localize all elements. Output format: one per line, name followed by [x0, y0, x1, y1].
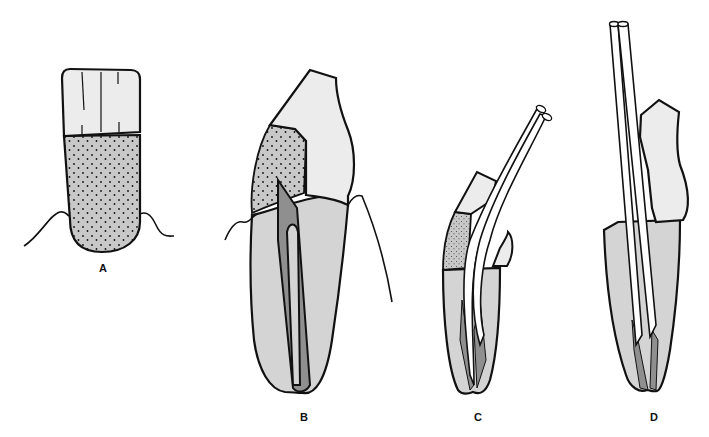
- panel-a-tooth: [24, 69, 174, 252]
- panel-label-d: D: [650, 411, 658, 423]
- dental-figure: A B C D: [0, 0, 709, 437]
- panel-label-b: B: [300, 411, 308, 423]
- root-stippled: [64, 135, 140, 252]
- crown: [640, 100, 688, 222]
- panel-d-tooth: [604, 22, 688, 392]
- gum-line-left: [24, 212, 69, 246]
- figure-canvas: [0, 0, 709, 437]
- panel-b-tooth: [225, 70, 392, 393]
- crown-back: [493, 232, 512, 266]
- panel-label-a: A: [99, 262, 107, 274]
- gum-line-right: [138, 213, 174, 236]
- panel-c-tooth: [443, 104, 553, 394]
- canal-right: [650, 330, 658, 390]
- gum-line-right: [348, 195, 392, 302]
- panel-label-c: C: [474, 411, 482, 423]
